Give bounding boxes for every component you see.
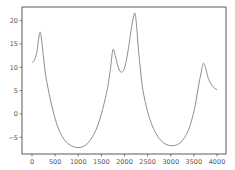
x-tick-label: 2000	[116, 158, 133, 166]
x-tick-label: 2500	[139, 158, 156, 166]
y-tick-label: 15	[10, 40, 18, 48]
y-tick-label: 20	[10, 17, 18, 25]
y-axis-ticks: −505101520	[8, 17, 22, 142]
x-tick-label: 0	[30, 158, 34, 166]
x-tick-label: 500	[49, 158, 61, 166]
x-axis-ticks: 05001000150020002500300035004000	[30, 154, 225, 166]
x-tick-label: 1000	[70, 158, 87, 166]
plot-area	[22, 7, 226, 154]
x-tick-label: 4000	[209, 158, 226, 166]
x-tick-label: 1500	[93, 158, 110, 166]
y-tick-label: −5	[8, 134, 18, 142]
line-chart: 05001000150020002500300035004000 −505101…	[0, 0, 235, 170]
y-tick-label: 5	[14, 87, 18, 95]
x-tick-label: 3000	[162, 158, 179, 166]
y-tick-label: 10	[10, 64, 18, 72]
y-tick-label: 0	[14, 110, 18, 118]
x-tick-label: 3500	[186, 158, 203, 166]
